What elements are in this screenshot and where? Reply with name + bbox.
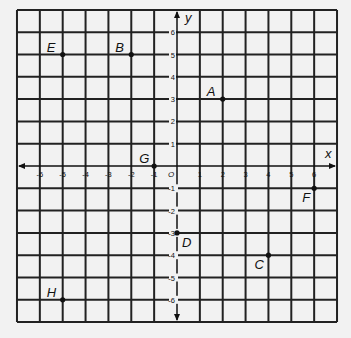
point-label-c: C (254, 257, 264, 272)
x-tick-label: -4 (82, 170, 89, 179)
y-tick-label: -3 (168, 229, 175, 238)
point-e (60, 52, 65, 57)
point-label-h: H (47, 285, 57, 300)
x-tick-label: 4 (266, 170, 270, 179)
x-axis-right-arrow-icon (329, 163, 336, 169)
x-tick-label: 5 (289, 170, 293, 179)
y-tick-label: 2 (171, 117, 175, 126)
point-label-a: A (206, 84, 216, 99)
y-axis-up-arrow-icon (174, 11, 180, 18)
point-b (129, 52, 134, 57)
x-axis-left-arrow-icon (18, 163, 25, 169)
x-tick-label: -6 (37, 170, 44, 179)
y-tick-label: -4 (168, 251, 175, 260)
y-tick-label: -2 (168, 207, 175, 216)
y-tick-label: 4 (171, 73, 175, 82)
point-c (266, 253, 271, 258)
x-tick-label: -5 (59, 170, 66, 179)
point-label-g: G (139, 151, 149, 166)
point-h (60, 297, 65, 302)
point-d (174, 230, 179, 235)
y-axis-down-arrow-icon (174, 314, 180, 321)
y-tick-label: -1 (168, 184, 175, 193)
y-tick-label: 1 (171, 140, 175, 149)
y-tick-label: 6 (171, 28, 175, 37)
point-label-f: F (302, 190, 311, 205)
x-tick-label: -1 (151, 170, 158, 179)
x-axis-label: x (324, 146, 332, 161)
point-label-d: D (182, 235, 191, 250)
x-tick-label: 3 (243, 170, 247, 179)
x-tick-label: 2 (221, 170, 225, 179)
x-tick-label: 6 (312, 170, 316, 179)
origin-label: O (168, 170, 174, 179)
y-tick-label: 5 (171, 51, 175, 60)
point-a (220, 97, 225, 102)
x-tick-label: -2 (128, 170, 135, 179)
point-label-e: E (47, 40, 56, 55)
point-label-b: B (115, 40, 124, 55)
coordinate-grid: xyO-6-5-4-3-2-1123456-6-5-4-3-2-1123456A… (0, 0, 351, 338)
point-g (152, 163, 157, 168)
y-tick-label: -5 (168, 274, 175, 283)
y-tick-label: -6 (168, 296, 175, 305)
point-f (312, 186, 317, 191)
y-axis-label: y (184, 10, 193, 25)
x-tick-label: -3 (105, 170, 112, 179)
y-tick-label: 3 (171, 95, 175, 104)
x-tick-label: 1 (198, 170, 202, 179)
